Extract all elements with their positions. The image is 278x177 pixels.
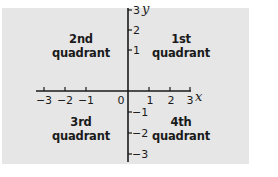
x-tick-label: 2 [168, 94, 175, 107]
quadrant-ordinal: 4th [144, 115, 218, 129]
y-axis-label: y [141, 1, 150, 16]
x-tick-label: 3 [187, 94, 194, 107]
quadrant-word: quadrant [44, 129, 118, 143]
y-tick-label: 2 [133, 24, 140, 37]
quadrant-ordinal: 3rd [44, 115, 118, 129]
quadrant-label-first: 1st quadrant [144, 32, 218, 60]
origin-label: 0 [118, 94, 125, 107]
x-axis-label: x [195, 89, 203, 104]
quadrant-ordinal: 2nd [44, 32, 118, 46]
quadrant-ordinal: 1st [144, 32, 218, 46]
x-tick-label: −2 [57, 94, 73, 107]
quadrant-word: quadrant [144, 129, 218, 143]
x-tick-label: −1 [78, 94, 94, 107]
y-tick-label: 1 [133, 44, 140, 57]
y-tick-label: −3 [132, 148, 148, 161]
quadrant-label-second: 2nd quadrant [44, 32, 118, 60]
quadrant-label-third: 3rd quadrant [44, 115, 118, 143]
quadrant-label-fourth: 4th quadrant [144, 115, 218, 143]
x-tick-label: −3 [36, 94, 52, 107]
coordinate-plane: −3 −2 −1 1 2 3 0 3 2 1 −1 −2 −3 x y [0, 0, 278, 177]
quadrant-word: quadrant [44, 46, 118, 60]
y-tick-label: 3 [133, 4, 140, 17]
quadrant-word: quadrant [144, 46, 218, 60]
